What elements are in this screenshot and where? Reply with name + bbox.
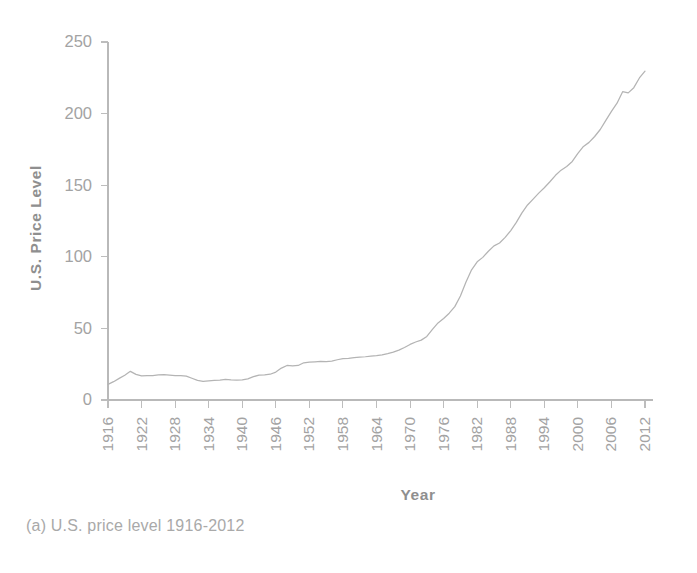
x-tick-label: 2012 [636, 417, 653, 451]
x-axis-title: Year [400, 486, 435, 503]
y-tick-label: 150 [64, 176, 92, 194]
x-tick-label: 1952 [300, 417, 317, 451]
x-tick-label: 1934 [200, 417, 217, 452]
y-tick-label: 50 [74, 319, 92, 337]
y-tick-label: 0 [83, 390, 92, 408]
chart-canvas: 050100150200250 191619221928193419401946… [0, 0, 697, 573]
x-tick-label: 2006 [602, 417, 619, 451]
x-axis-ticks [108, 400, 645, 408]
y-axis-title: U.S. Price Level [27, 165, 44, 291]
y-axis-ticks [101, 42, 108, 400]
x-tick-label: 2000 [569, 417, 586, 452]
x-tick-label: 1922 [133, 417, 150, 451]
x-tick-label: 1988 [502, 417, 519, 451]
y-tick-label: 250 [64, 32, 92, 50]
x-tick-label: 1970 [401, 417, 418, 452]
x-tick-label: 1946 [267, 417, 284, 451]
x-tick-label: 1994 [535, 417, 552, 452]
figure-caption: (a) U.S. price level 1916-2012 [26, 517, 245, 535]
price-level-line [108, 71, 645, 384]
x-tick-label: 1916 [99, 417, 116, 451]
x-tick-label: 1964 [368, 417, 385, 452]
x-tick-label: 1958 [334, 417, 351, 451]
x-tick-label: 1940 [233, 417, 250, 452]
x-axis-tick-labels: 1916192219281934194019461952195819641970… [99, 417, 653, 452]
y-tick-label: 100 [64, 247, 92, 265]
x-tick-label: 1928 [166, 417, 183, 451]
x-tick-label: 1976 [435, 417, 452, 451]
price-level-figure: 050100150200250 191619221928193419401946… [0, 0, 697, 573]
y-tick-label: 200 [64, 104, 92, 122]
x-tick-label: 1982 [468, 417, 485, 451]
y-axis-tick-labels: 050100150200250 [64, 32, 92, 408]
